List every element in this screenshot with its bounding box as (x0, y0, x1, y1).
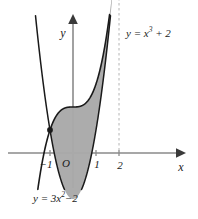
svg-text:y = 3x2−2: y = 3x2−2 (32, 190, 78, 204)
x-axis-arrow-icon (176, 148, 186, 158)
cubic-label-suffix: + 2 (155, 27, 171, 39)
y-axis-label: y (59, 26, 66, 40)
tick-label-minus-1: −1 (40, 158, 53, 170)
tick-label-2: 2 (117, 159, 123, 171)
parabola-label-suffix: −2 (65, 192, 78, 204)
parabola-label-prefix: y = 3x (32, 192, 61, 204)
parabola-curve-label: y = 3x2−2 (32, 190, 78, 204)
cubic-label-prefix: y = x (125, 27, 149, 39)
svg-text:y = x3 + 2: y = x3 + 2 (125, 25, 171, 39)
origin-label: O (62, 157, 70, 169)
cubic-curve-label: y = x3 + 2 (125, 25, 171, 39)
intersection-point-left (47, 127, 53, 133)
figure-canvas: −1 1 2 O x y y = x3 + 2 y = 3x2−2 (0, 0, 198, 219)
tick-label-1: 1 (94, 158, 100, 170)
x-axis-label: x (177, 160, 184, 174)
y-axis-arrow-icon (68, 14, 78, 24)
math-figure: −1 1 2 O x y y = x3 + 2 y = 3x2−2 (0, 0, 198, 219)
